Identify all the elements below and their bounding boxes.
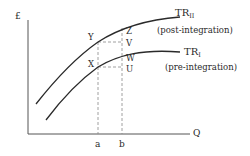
total-revenue-diagram: £ Q a b Y X Z V W U TRII (post-integrati… [0,0,250,156]
tr-i-curve [46,51,180,120]
x-tick-a: a [95,140,100,149]
tr-i-note: (pre-integration) [165,63,237,72]
point-x-label: X [88,60,94,69]
point-z-label: Z [126,27,132,36]
x-axis-label: Q [193,129,200,138]
y-axis-label: £ [15,12,21,21]
point-v-label: V [126,39,132,48]
point-y-label: Y [88,33,94,42]
tr-i-label: TRI [184,47,201,59]
x-tick-b: b [119,140,125,149]
tr-ii-label: TRII [175,8,194,20]
tr-ii-note: (post-integration) [157,26,233,35]
diagram-canvas [0,0,250,156]
point-u-label: U [126,65,133,74]
point-w-label: W [126,54,135,63]
